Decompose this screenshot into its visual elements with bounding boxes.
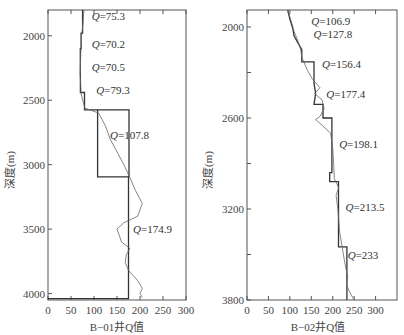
y-tick-label: 2500 [23,94,46,106]
q-annotation: Q=233 [348,249,379,261]
q-annotation: Q=213.5 [346,201,385,213]
x-tick-label: 150 [109,304,126,316]
y-tick-label: 4000 [23,288,46,300]
x-tick-label: 100 [282,304,299,316]
q-annotation: Q=79.3 [96,84,130,96]
q-annotation: Q=106.9 [311,15,350,27]
y-tick-label: 2600 [222,112,245,124]
q-annotation: Q=75.3 [92,10,126,22]
y-tick-label: 3500 [23,223,46,235]
x-tick-label: 300 [178,304,195,316]
x-tick-label: 200 [132,304,149,316]
x-tick-label: 250 [346,304,363,316]
x-tick-label: 0 [244,304,250,316]
smooth-q-series [288,10,354,300]
y-tick-label: 3200 [222,203,245,215]
x-tick-label: 50 [66,304,78,316]
x-axis-label-right: B−02井Q值 [291,320,345,333]
q-annotation: Q=156.4 [322,58,361,70]
step-q-series [48,10,129,299]
q-annotation: Q=70.2 [92,38,125,50]
b02-q-plot: 0501001502002503002000260032003800Q=106.… [222,10,397,316]
y-axis-label-right: 深度(m) [201,151,215,189]
b01-q-plot: 05010015020025030020002500300035004000Q=… [23,10,195,316]
x-tick-label: 150 [303,304,320,316]
x-tick-label: 100 [86,304,103,316]
y-tick-label: 3000 [23,159,46,171]
q-value-depth-charts: 05010015020025030020002500300035004000Q=… [0,0,404,335]
q-annotation: Q=177.4 [326,88,365,100]
x-tick-label: 300 [367,304,384,316]
smooth-q-series [80,10,142,297]
x-tick-label: 200 [324,304,341,316]
q-annotation: Q=127.8 [313,28,352,40]
y-tick-label: 2000 [222,21,245,33]
x-tick-label: 250 [155,304,172,316]
q-annotation: Q=70.5 [92,61,126,73]
plot-frame [48,10,186,300]
x-axis-label-left: B−01井Q值 [90,320,144,333]
step-q-series [288,10,347,300]
y-axis-label-left: 深度(m) [3,151,17,189]
q-annotation: Q=174.9 [133,223,172,235]
q-annotation: Q=198.1 [339,138,378,150]
q-annotation: Q=107.8 [110,129,149,141]
x-tick-label: 0 [45,304,51,316]
y-tick-label: 2000 [23,30,46,42]
x-tick-label: 50 [263,304,275,316]
y-tick-label: 3800 [222,294,245,306]
